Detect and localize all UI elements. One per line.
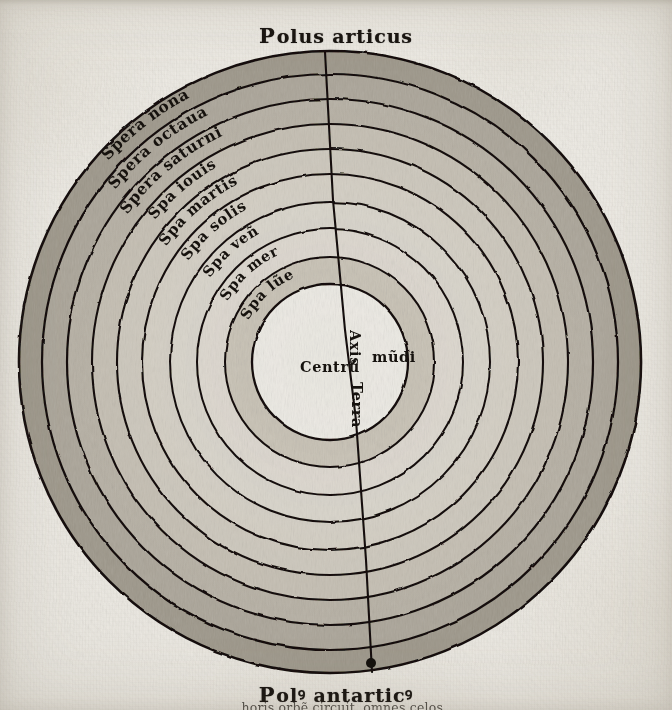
page-body-text-fragment: ...horis orbẽ circuit, omnes celos <box>0 700 672 710</box>
cosmos-diagram: Spera nona Spera octaua Spera saturni Sp… <box>0 0 672 710</box>
label-terra: Terra <box>349 382 366 428</box>
antarctic-pole-dot <box>366 658 376 668</box>
woodcut-page: Spera nona Spera octaua Spera saturni Sp… <box>0 0 672 710</box>
sphere-diagram-svg: Spera nona Spera octaua Spera saturni Sp… <box>0 0 672 710</box>
label-mundi: mũdi <box>372 348 416 365</box>
label-axis: Axis <box>347 329 364 366</box>
caption-top-rest: olus articus <box>277 25 413 47</box>
caption-polus-articus: Polus articus <box>0 23 672 48</box>
caption-top-initial: P <box>259 23 276 48</box>
